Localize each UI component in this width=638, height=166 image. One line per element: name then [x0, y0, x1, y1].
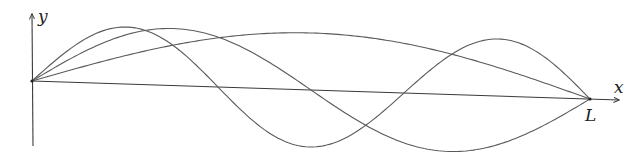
- origin-point: [30, 79, 33, 82]
- standing-waves-diagram: y x L: [0, 0, 638, 166]
- mode-curves: [32, 27, 590, 152]
- x-axis: [32, 81, 619, 100]
- length-label-L: L: [584, 105, 596, 125]
- y-axis-label: y: [37, 6, 48, 26]
- mode-2-curve: [32, 28, 590, 151]
- mode-1-curve: [32, 33, 590, 99]
- mode-3-curve: [32, 27, 590, 147]
- end-point-L: [588, 97, 591, 100]
- x-axis-label: x: [614, 77, 624, 97]
